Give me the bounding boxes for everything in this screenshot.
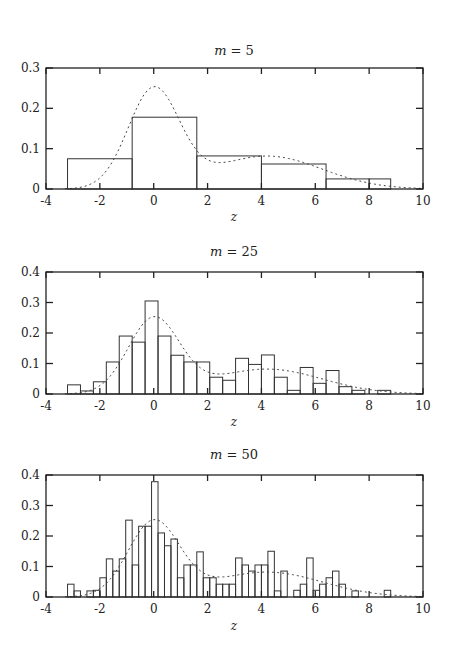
histogram-bars (68, 117, 391, 189)
histogram-bar (106, 362, 119, 394)
x-tick-label: -4 (40, 194, 52, 208)
x-tick-label: 4 (258, 399, 266, 413)
density-curve (65, 520, 422, 597)
histogram-bar (339, 387, 352, 394)
x-tick-label: -4 (40, 602, 52, 616)
histogram-bar (139, 526, 145, 597)
histogram-bar (384, 590, 390, 597)
histogram-bar (333, 571, 339, 597)
y-tick-label: 0 (32, 590, 40, 604)
x-tick-label: -2 (94, 602, 106, 616)
histogram-bar (132, 565, 138, 597)
histogram-bar (326, 578, 332, 597)
histogram-bar (223, 380, 236, 394)
histogram-bar (158, 336, 171, 394)
histogram-bar (126, 520, 132, 597)
x-tick-label: 2 (204, 194, 212, 208)
x-tick-label: 10 (415, 399, 430, 413)
x-tick-label: 6 (311, 399, 319, 413)
x-tick-label: 0 (150, 194, 158, 208)
panel-title: m= 5 (214, 43, 254, 58)
histogram-bar (274, 377, 287, 394)
y-tick-label: 0.2 (21, 101, 40, 115)
histogram-bar (261, 164, 326, 189)
y-tick-label: 0.1 (21, 357, 40, 371)
histogram-bar (171, 355, 184, 394)
histogram-bar (68, 385, 81, 394)
histogram-bar (236, 558, 242, 597)
x-tick-label: 4 (258, 602, 266, 616)
histogram-figure: m= 5 -4-2024681000.10.20.3 z m= 25 -4-20… (0, 0, 453, 649)
histogram-bar (190, 565, 196, 597)
x-tick-label: 6 (311, 194, 319, 208)
x-tick-label: 0 (150, 602, 158, 616)
histogram-bar (210, 377, 223, 394)
y-tick-label: 0 (32, 387, 40, 401)
histogram-bar (197, 156, 262, 189)
histogram-bar (255, 565, 261, 597)
plot-frame (46, 68, 423, 189)
x-axis-label: z (230, 415, 238, 429)
y-tick-label: 0.1 (21, 142, 40, 156)
histogram-bar (326, 179, 369, 189)
histogram-bar (100, 578, 106, 597)
x-tick-label: 8 (365, 602, 373, 616)
histogram-bar (171, 539, 177, 597)
histogram-bar (369, 179, 391, 189)
histogram-bar (268, 551, 274, 597)
histogram-bar (261, 355, 274, 394)
histogram-bar (119, 336, 132, 394)
x-tick-label: 4 (258, 194, 266, 208)
histogram-bar (197, 552, 203, 597)
histogram-bar (320, 584, 326, 597)
density-curve (65, 87, 422, 189)
histogram-bar (132, 117, 197, 189)
histogram-bar (242, 565, 248, 597)
histogram-bar (307, 558, 313, 597)
panel-title: m= 50 (210, 447, 258, 462)
x-axis-label: z (230, 210, 238, 224)
x-tick-label: 6 (311, 602, 319, 616)
x-tick-label: -2 (94, 194, 106, 208)
histogram-bar (164, 546, 170, 597)
histogram-bar (313, 590, 319, 597)
histogram-bar (274, 591, 280, 597)
histogram-bar (326, 371, 339, 394)
y-tick-label: 0.4 (21, 265, 40, 279)
histogram-bar (294, 590, 300, 597)
y-tick-label: 0.2 (21, 529, 40, 543)
axis-ticks: -4-2024681000.10.20.3 (21, 61, 431, 208)
x-tick-label: 0 (150, 399, 158, 413)
y-tick-label: 0 (32, 182, 40, 196)
histogram-bar (145, 526, 151, 597)
y-tick-label: 0.4 (21, 468, 40, 482)
plot-frame (46, 475, 423, 597)
histogram-bar (106, 559, 112, 597)
x-tick-label: 2 (204, 399, 212, 413)
histogram-bar (158, 533, 164, 597)
histogram-bar (339, 584, 345, 597)
plot-frame (46, 272, 423, 394)
histogram-bar (223, 584, 229, 597)
x-tick-label: 2 (204, 602, 212, 616)
histogram-bar (119, 559, 125, 597)
density-curve (65, 317, 422, 394)
y-tick-label: 0.1 (21, 560, 40, 574)
histogram-bar (281, 571, 287, 597)
panel-title: m= 25 (210, 244, 258, 259)
histogram-bars (68, 482, 391, 597)
histogram-bar (203, 578, 209, 597)
y-tick-label: 0.2 (21, 326, 40, 340)
y-tick-label: 0.3 (21, 499, 40, 513)
x-axis-label: z (230, 619, 238, 633)
histogram-bar (184, 565, 190, 597)
histogram-bar (249, 571, 255, 597)
histogram-bar (184, 362, 197, 394)
histogram-bar (352, 591, 358, 597)
histogram-bar (177, 578, 183, 597)
x-tick-label: -2 (94, 399, 106, 413)
y-tick-label: 0.3 (21, 296, 40, 310)
axis-ticks: -4-2024681000.10.20.30.4 (21, 468, 431, 616)
x-tick-label: -4 (40, 399, 52, 413)
y-tick-label: 0.3 (21, 61, 40, 75)
